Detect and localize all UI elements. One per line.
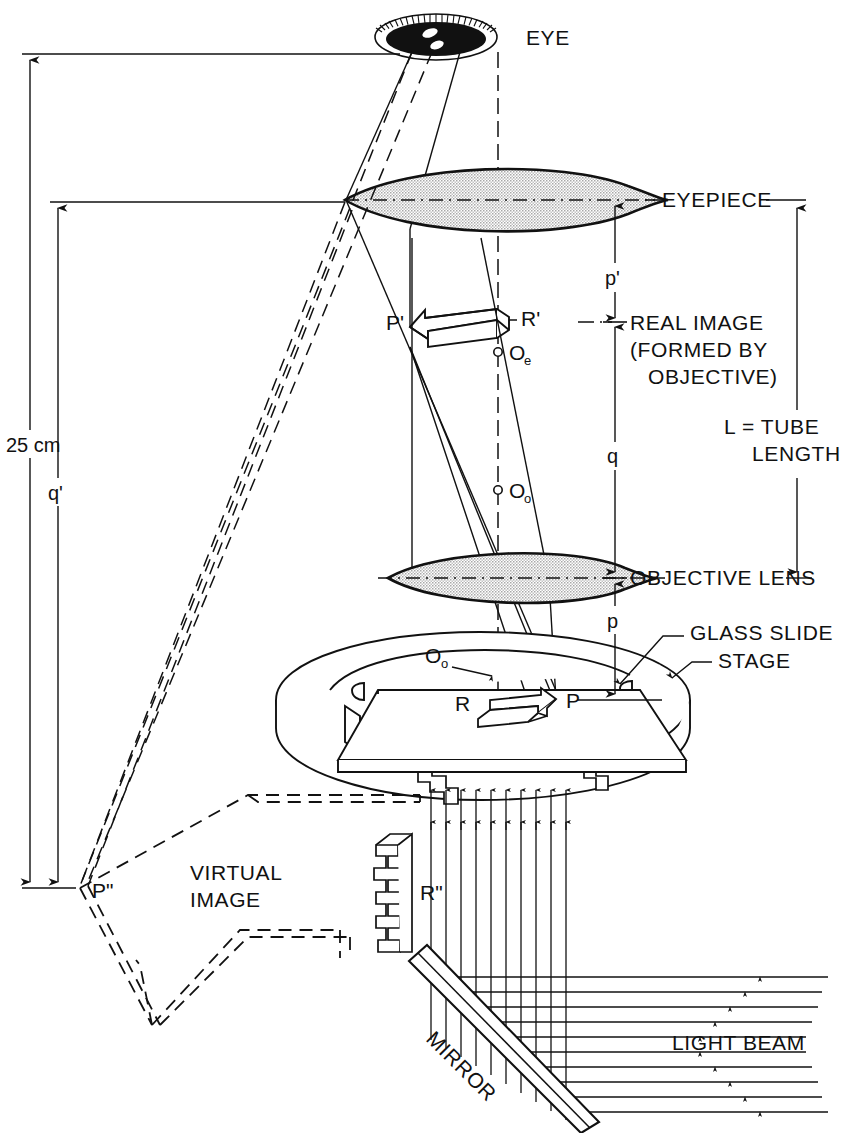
point-label-p-double-prime: P" — [92, 879, 113, 902]
objective-center-dot — [494, 486, 502, 494]
ray-eyepiece-edge-to-object — [346, 200, 560, 700]
real-image-object — [410, 309, 509, 347]
point-label-oe-sub: e — [524, 353, 531, 368]
objective-label-group: OBJECTIVE LENS — [630, 566, 816, 589]
virtual-image-label-2: IMAGE — [190, 888, 261, 911]
point-label-oo-stage-sub: o — [441, 656, 448, 671]
virtual-image-break-side — [398, 834, 412, 952]
vray-midpoint-arrowheads — [431, 822, 566, 830]
point-label-oo: O — [509, 479, 525, 502]
virtual-ray-d — [88, 210, 352, 886]
point-label-oo-stage: O — [425, 644, 441, 667]
virtual-image-upper-inner — [248, 795, 420, 802]
microscope-ray-diagram: EYE EYEPIECE P' R — [0, 0, 847, 1133]
glass-slide-thickness — [338, 760, 686, 772]
dim-label-q: q — [607, 445, 618, 467]
virtual-image-lower-vee — [136, 960, 152, 1025]
real-image-label-1: REAL IMAGE — [630, 311, 764, 334]
eyepiece-lens — [345, 169, 672, 231]
virtual-image-label-1: VIRTUAL — [190, 861, 283, 884]
objective-center-marker: O o — [494, 479, 531, 506]
point-label-oo-sub: o — [524, 491, 531, 506]
eye-pupil — [386, 22, 486, 56]
dim-label-q-prime: q' — [48, 482, 63, 504]
left-dimension-labels: 25 cm q' — [6, 434, 63, 504]
virtual-image-tip-lower — [80, 888, 152, 1025]
point-label-r-prime: R' — [521, 307, 540, 330]
stage-label: STAGE — [718, 649, 791, 672]
stage-clip-left — [352, 683, 364, 700]
mirror: MIRROR — [409, 945, 599, 1133]
figure-canvas: EYE EYEPIECE P' R — [0, 0, 847, 1133]
glass-slide-label: GLASS SLIDE — [690, 621, 833, 644]
virtual-image-break-edge — [374, 834, 412, 952]
dim-label-25cm: 25 cm — [6, 434, 60, 456]
tube-length-label-2: LENGTH — [752, 442, 841, 465]
principal-rays — [346, 200, 560, 700]
inner-dimension-column — [578, 206, 662, 700]
virtual-image-tip-lower-2 — [88, 886, 160, 1025]
point-label-r: R — [455, 692, 470, 715]
virtual-image-lower-edge-2 — [160, 937, 350, 1025]
stage-label-group: STAGE — [672, 649, 791, 678]
tube-length-labels: L = TUBE LENGTH — [724, 415, 841, 465]
eye-label: EYE — [526, 26, 570, 49]
light-beam-label: LIGHT BEAM — [672, 1031, 805, 1054]
point-label-oe: O — [509, 341, 525, 364]
eye-group: EYE — [375, 14, 570, 60]
real-image-edge — [497, 309, 509, 338]
ray-slanted-right — [481, 238, 549, 580]
dim-label-p-prime: p' — [605, 267, 620, 289]
eyepiece-center-marker: O e — [494, 341, 531, 368]
dim-label-p: p — [607, 610, 618, 632]
virtual-image-ragged-edge — [374, 845, 400, 952]
real-image-label-3: OBJECTIVE) — [648, 365, 778, 388]
tube-length-label-1: L = TUBE — [724, 415, 819, 438]
virtual-image-lower-edge — [152, 930, 340, 1025]
eyepiece-label: EYEPIECE — [662, 188, 772, 211]
virtual-ray-c — [80, 202, 345, 886]
eyepiece-center-dot — [494, 348, 502, 356]
eyepiece-label-group: EYEPIECE — [645, 188, 806, 211]
point-label-p: P — [566, 689, 580, 712]
real-image-label-2: (FORMED BY — [630, 338, 768, 361]
